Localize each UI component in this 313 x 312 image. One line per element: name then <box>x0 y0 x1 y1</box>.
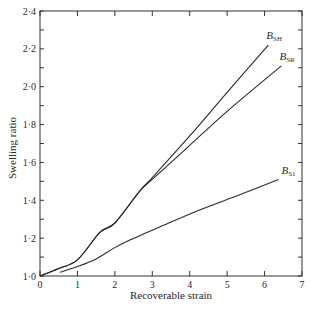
x-tick-label: 6 <box>262 279 267 290</box>
x-tick-label: 5 <box>225 279 230 290</box>
series-label-b-sh: BSH <box>266 29 282 43</box>
y-tick-label: 1·4 <box>23 195 36 206</box>
series-labels: BSHBSRBS1 <box>266 29 296 178</box>
curves <box>40 45 281 276</box>
y-tick-label: 1·8 <box>23 119 36 130</box>
x-axis-label: Recoverable strain <box>130 289 213 301</box>
y-tick-label: 2·2 <box>23 43 36 54</box>
x-tick-label: 0 <box>38 279 43 290</box>
series-label-b-sr: BSR <box>279 50 295 64</box>
series-label-b-s1: BS1 <box>281 164 296 178</box>
curve-b-sh <box>40 45 268 276</box>
x-tick-label: 7 <box>300 279 305 290</box>
y-tick-label: 1·0 <box>23 271 36 282</box>
curve-b-sr <box>40 66 281 276</box>
y-tick-label: 2·4 <box>23 6 36 17</box>
y-tick-label: 2·0 <box>23 81 36 92</box>
y-tick-labels: 1·01·21·41·61·82·02·22·4 <box>23 6 36 282</box>
chart: 01234567 1·01·21·41·61·82·02·22·4 BSHBSR… <box>0 0 313 312</box>
y-tick-label: 1·6 <box>23 157 36 168</box>
y-tick-label: 1·2 <box>23 233 36 244</box>
x-tick-label: 2 <box>112 279 117 290</box>
y-axis-label: Swelling ratio <box>6 116 18 179</box>
x-tick-label: 1 <box>75 279 80 290</box>
curve-b-s1 <box>60 179 279 272</box>
